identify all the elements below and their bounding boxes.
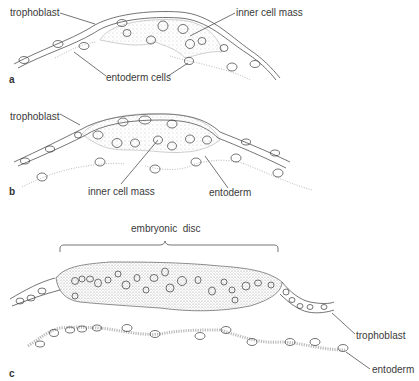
panel-letter-a: a: [9, 74, 15, 85]
panel-letter-b: b: [9, 186, 15, 197]
panel-a-drawing: [14, 12, 280, 80]
panel-b-drawing: [14, 114, 312, 190]
label-a-trophoblast: trophoblast: [10, 7, 59, 18]
embryo-diagram: trophoblast inner cell mass entoderm cel…: [0, 0, 419, 381]
label-c-embryonic-disc: embryonic disc: [131, 223, 200, 234]
label-c-entoderm: entoderm: [372, 364, 414, 375]
label-b-trophoblast: trophoblast: [10, 111, 59, 122]
label-c-trophoblast: trophoblast: [356, 330, 405, 341]
label-a-inner-cell-mass: inner cell mass: [236, 7, 303, 18]
panel-letter-c: c: [9, 368, 15, 379]
panel-c-drawing: [10, 241, 370, 369]
label-b-entoderm: entoderm: [209, 187, 251, 198]
label-a-entoderm-cells: entoderm cells: [106, 72, 171, 83]
label-b-inner-cell-mass: inner cell mass: [88, 186, 155, 197]
